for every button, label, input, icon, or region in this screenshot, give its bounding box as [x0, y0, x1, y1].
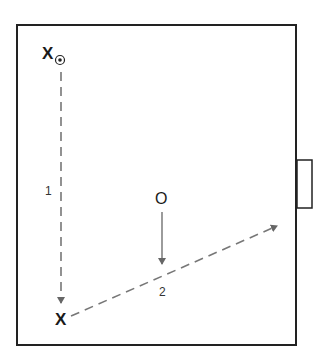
player-defender: O: [155, 191, 167, 207]
movement-label-1: 1: [45, 185, 52, 197]
player-attacker-end: X: [55, 311, 66, 328]
ball-icon: [56, 56, 65, 65]
field-boundary: [17, 25, 296, 345]
movement-label-2: 2: [159, 286, 166, 298]
goal: [297, 160, 312, 208]
player-attacker-start: X: [42, 45, 53, 62]
